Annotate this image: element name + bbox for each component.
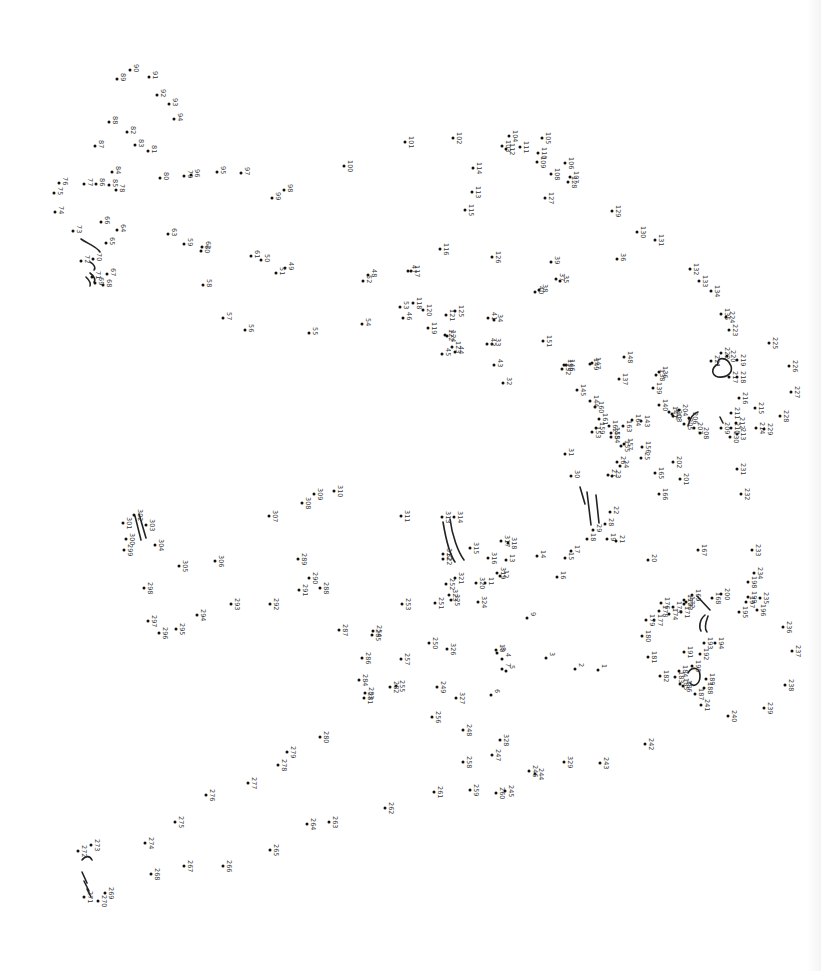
dot-number-label: 92	[160, 89, 167, 97]
dot-number-label: 273	[94, 839, 101, 851]
dot-number-label: 181	[651, 651, 658, 663]
dot-point[interactable]	[490, 694, 493, 697]
dot-number-label: 99	[275, 192, 282, 200]
dot-number-label: 309	[317, 488, 324, 500]
dot-number-label: 21	[619, 535, 626, 543]
dot-point[interactable]	[501, 658, 504, 661]
dot-number-label: 231	[740, 463, 747, 475]
dot-number-label: 46	[406, 312, 413, 320]
dot-number-label: 49	[288, 262, 295, 270]
dot-number-label: 221	[714, 355, 721, 367]
dot-number-label: 196	[760, 604, 767, 616]
dot-number-label: 315	[473, 542, 480, 554]
dot-number-label: 319	[500, 567, 507, 579]
dot-number-label: 322	[446, 553, 453, 565]
dot-number-label: 264	[310, 818, 317, 830]
dot-number-label: 78	[119, 184, 126, 192]
dot-number-label: 51	[279, 267, 286, 275]
dot-number-label: 277	[251, 777, 258, 789]
dot-number-label: 59	[187, 238, 194, 246]
dot-number-label: 278	[281, 759, 288, 771]
dot-point[interactable]	[574, 668, 577, 671]
dot-number-label: 294	[200, 609, 207, 621]
dot-number-label: 245	[508, 785, 515, 797]
left-paw-claw-4	[86, 277, 90, 286]
dot-number-label: 219	[740, 354, 747, 366]
foot-claws-2	[82, 872, 87, 883]
dot-number-label: 268	[154, 868, 161, 880]
dot-number-label: 250	[432, 637, 439, 649]
dot-number-label: 166	[662, 488, 669, 500]
dot-number-label: 298	[147, 582, 154, 594]
dot-number-label: 279	[290, 746, 297, 758]
dot-number-label: 66	[104, 216, 111, 224]
dot-number-label: 329	[567, 756, 574, 768]
dot-number-label: 247	[495, 749, 502, 761]
dot-number-label: 114	[476, 162, 483, 174]
dot-number-label: 248	[466, 724, 473, 736]
dot-number-label: 256	[435, 711, 442, 723]
mouth-line-2	[700, 615, 705, 631]
dot-number-label: 175	[676, 601, 683, 613]
dot-number-label: 251	[438, 597, 445, 609]
dot-number-label: 163	[626, 420, 633, 432]
dot-number-label: 113	[475, 186, 482, 198]
dot-point[interactable]	[597, 669, 600, 672]
dot-number-label: 161	[602, 413, 609, 425]
dot-number-label: 111	[523, 141, 530, 153]
dot-number-label: 41	[491, 312, 498, 320]
dot-number-label: 259	[473, 784, 480, 796]
dot-number-label: 308	[305, 497, 312, 509]
dot-number-label: 149	[593, 358, 600, 370]
dot-number-label: 204	[682, 404, 689, 416]
dot-number-label: 215	[758, 402, 765, 414]
dot-number-label: 54	[365, 318, 372, 326]
dot-number-label: 13	[509, 554, 516, 562]
dot-point[interactable]	[505, 670, 508, 673]
dot-number-label: 235	[763, 592, 770, 604]
dot-number-label: 327	[459, 692, 466, 704]
dot-number-label: 232	[744, 488, 751, 500]
dot-number-label: 229	[767, 423, 774, 435]
dot-number-label: 145	[580, 384, 587, 396]
dot-number-label: 192	[703, 648, 710, 660]
dot-number-label: 126	[495, 251, 502, 263]
dot-number-label: 321	[458, 572, 465, 584]
dot-number-label: 137	[622, 373, 629, 385]
dot-number-label: 81	[151, 145, 158, 153]
dot-number-label: 307	[272, 510, 279, 522]
dot-point[interactable]	[526, 617, 529, 620]
dot-number-label: 297	[151, 615, 158, 627]
dot-number-label: 290	[312, 572, 319, 584]
dot-number-label: 287	[342, 624, 349, 636]
dot-number-label: 42	[490, 338, 497, 346]
dot-number-label: 88	[112, 116, 119, 124]
dot-number-label: 182	[663, 670, 670, 682]
dot-number-label: 95	[220, 166, 227, 174]
dot-number-label: 266	[226, 860, 233, 872]
dot-number-label: 85	[112, 179, 119, 187]
dot-number-label: 223	[732, 324, 739, 336]
dot-number-label: 80	[163, 172, 170, 180]
dot-number-label: 200	[724, 588, 731, 600]
dot-number-label: 164	[635, 414, 642, 426]
dot-number-label: 240	[731, 710, 738, 722]
dot-number-label: 82	[130, 126, 137, 134]
dot-point[interactable]	[501, 668, 504, 671]
tail-lines-1	[580, 487, 585, 504]
dot-number-label: 199	[751, 591, 758, 603]
dot-number-label: 295	[179, 623, 186, 635]
dot-number-label: 318	[511, 537, 518, 549]
dot-number-label: 108	[554, 168, 561, 180]
dot-point[interactable]	[545, 657, 548, 660]
dot-number-label: 36	[620, 253, 627, 261]
dot-number-label: 261	[437, 786, 444, 798]
dot-number-label: 18	[590, 533, 597, 541]
dot-number-label: 227	[794, 386, 801, 398]
dot-number-label: 284	[362, 674, 369, 686]
dot-number-label: 74	[58, 206, 65, 214]
dot-number-label: 73	[76, 225, 83, 233]
dot-number-label: 40	[538, 286, 545, 294]
dot-number-label: 9	[530, 612, 537, 616]
mouth-line-3	[706, 616, 708, 632]
